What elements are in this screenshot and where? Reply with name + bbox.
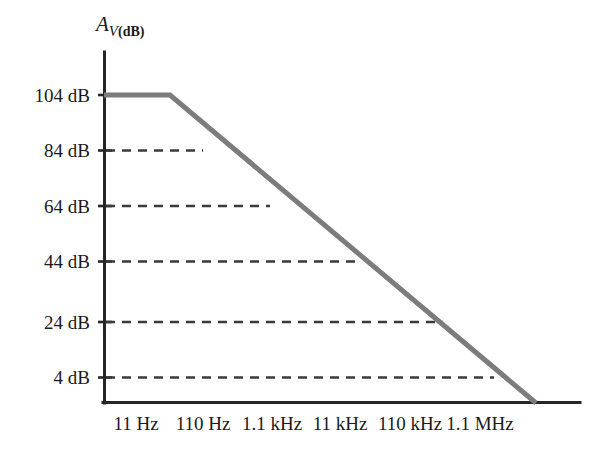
x-axis-label-11khz: 11 kHz: [313, 414, 368, 433]
x-axis-label-1.1khz: 1.1 kHz: [242, 414, 302, 433]
gain-response-curve: [104, 95, 536, 403]
x-axis-label-1.1mhz: 1.1 MHz: [446, 414, 514, 433]
x-axis-label-11hz: 11 Hz: [113, 414, 158, 433]
y-axis-label-4: 4 dB: [22, 368, 90, 387]
y-axis-label-104: 104 dB: [22, 86, 90, 105]
bode-plot-figure: AV(dB) 104 dB 84 dB 64 dB 44 dB 24 dB 4 …: [0, 0, 606, 458]
x-axis-label-110khz: 110 kHz: [378, 414, 442, 433]
bode-plot-canvas: [0, 0, 606, 458]
y-axis-label-44: 44 dB: [22, 252, 90, 271]
y-axis-label-84: 84 dB: [22, 141, 90, 160]
y-axis-label-64: 64 dB: [22, 197, 90, 216]
y-axis-label-24: 24 dB: [22, 313, 90, 332]
x-axis-label-110hz: 110 Hz: [176, 414, 231, 433]
